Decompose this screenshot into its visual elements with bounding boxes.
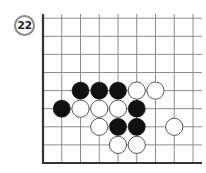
black-stone <box>109 82 126 99</box>
white-stone <box>91 118 108 135</box>
black-stone <box>128 100 145 117</box>
white-stone <box>109 136 126 153</box>
black-stone <box>91 82 108 99</box>
black-stone <box>109 118 126 135</box>
problem-number: 22 <box>17 19 31 32</box>
black-stone <box>128 118 145 135</box>
black-stone <box>72 82 89 99</box>
problem-number-badge: 22 <box>14 15 35 36</box>
white-stone <box>166 118 183 135</box>
stones <box>53 82 183 153</box>
white-stone <box>109 100 126 117</box>
black-stone <box>53 100 70 117</box>
white-stone <box>147 82 164 99</box>
white-stone <box>128 136 145 153</box>
white-stone <box>91 100 108 117</box>
white-stone <box>72 100 89 117</box>
white-stone <box>128 82 145 99</box>
